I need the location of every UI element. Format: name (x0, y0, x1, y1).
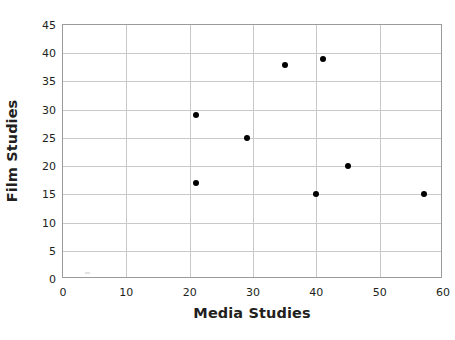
gridline-vertical (253, 25, 254, 277)
y-axis-tick-label: 45 (42, 19, 56, 32)
data-point (244, 135, 250, 141)
x-axis-tick-label: 30 (246, 286, 260, 299)
y-axis-tick-label: 35 (42, 75, 56, 88)
gridline-vertical (190, 25, 191, 277)
y-axis-tick-label: 0 (49, 273, 56, 286)
x-axis-tick-label: 50 (373, 286, 387, 299)
plot-inner: 0510152025303540450102030405060 (63, 25, 441, 277)
y-axis-tick-label: 15 (42, 188, 56, 201)
gridline-horizontal (63, 81, 441, 82)
x-axis-tick-label: 40 (309, 286, 323, 299)
x-axis-tick-label: 0 (60, 286, 67, 299)
x-axis-tick-label: 60 (436, 286, 450, 299)
gridline-horizontal (63, 251, 441, 252)
y-axis-tick-label: 20 (42, 160, 56, 173)
gridline-vertical (126, 25, 127, 277)
plot-area: 0510152025303540450102030405060 (62, 24, 442, 278)
data-point (193, 112, 199, 118)
gridline-vertical (380, 25, 381, 277)
data-point (193, 180, 199, 186)
gridline-horizontal (63, 223, 441, 224)
x-axis-tick-label: 10 (119, 286, 133, 299)
data-point (345, 163, 351, 169)
y-axis-tick-label: 5 (49, 244, 56, 257)
scan-artifact-speck (85, 272, 90, 274)
data-point (282, 62, 288, 68)
y-axis-tick-label: 10 (42, 216, 56, 229)
gridline-horizontal (63, 138, 441, 139)
y-axis-title: Film Studies (4, 24, 26, 278)
scatter-chart-figure: Film Studies 051015202530354045010203040… (0, 0, 455, 340)
y-axis-tick-label: 25 (42, 131, 56, 144)
gridline-horizontal (63, 110, 441, 111)
x-axis-tick-label: 20 (183, 286, 197, 299)
x-axis-title: Media Studies (62, 305, 442, 321)
gridline-vertical (316, 25, 317, 277)
y-axis-tick-label: 40 (42, 47, 56, 60)
data-point (313, 191, 319, 197)
data-point (421, 191, 427, 197)
gridline-horizontal (63, 166, 441, 167)
gridline-horizontal (63, 194, 441, 195)
gridline-horizontal (63, 53, 441, 54)
y-axis-tick-label: 30 (42, 103, 56, 116)
data-point (320, 56, 326, 62)
